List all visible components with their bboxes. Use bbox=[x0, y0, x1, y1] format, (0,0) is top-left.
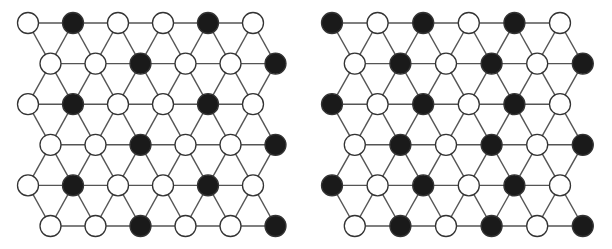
empty-node bbox=[436, 216, 457, 237]
empty-node bbox=[108, 13, 129, 34]
filled-node bbox=[413, 13, 434, 34]
filled-node bbox=[265, 134, 286, 155]
filled-node bbox=[130, 216, 151, 237]
filled-node bbox=[572, 134, 593, 155]
empty-node bbox=[458, 175, 479, 196]
filled-node bbox=[130, 134, 151, 155]
filled-node bbox=[130, 53, 151, 74]
filled-node bbox=[504, 13, 525, 34]
filled-node bbox=[572, 216, 593, 237]
empty-node bbox=[436, 53, 457, 74]
empty-node bbox=[108, 94, 129, 115]
empty-node bbox=[458, 13, 479, 34]
filled-node bbox=[413, 175, 434, 196]
empty-node bbox=[85, 216, 106, 237]
empty-node bbox=[344, 216, 365, 237]
filled-node bbox=[322, 94, 343, 115]
empty-node bbox=[40, 53, 61, 74]
filled-node bbox=[63, 13, 84, 34]
empty-node bbox=[220, 134, 241, 155]
empty-node bbox=[550, 175, 571, 196]
empty-node bbox=[344, 134, 365, 155]
filled-node bbox=[390, 216, 411, 237]
filled-node bbox=[413, 94, 434, 115]
empty-node bbox=[243, 175, 264, 196]
empty-node bbox=[458, 94, 479, 115]
empty-node bbox=[85, 134, 106, 155]
empty-node bbox=[175, 53, 196, 74]
empty-node bbox=[153, 94, 174, 115]
empty-node bbox=[436, 134, 457, 155]
empty-node bbox=[367, 13, 388, 34]
empty-node bbox=[344, 53, 365, 74]
filled-node bbox=[572, 53, 593, 74]
filled-node bbox=[63, 175, 84, 196]
filled-node bbox=[322, 13, 343, 34]
filled-node bbox=[265, 53, 286, 74]
empty-node bbox=[40, 216, 61, 237]
empty-node bbox=[153, 13, 174, 34]
filled-node bbox=[265, 216, 286, 237]
empty-node bbox=[550, 94, 571, 115]
filled-node bbox=[63, 94, 84, 115]
empty-node bbox=[527, 216, 548, 237]
empty-node bbox=[108, 175, 129, 196]
empty-node bbox=[153, 175, 174, 196]
filled-node bbox=[504, 175, 525, 196]
empty-node bbox=[18, 13, 39, 34]
filled-node bbox=[390, 134, 411, 155]
empty-node bbox=[85, 53, 106, 74]
empty-node bbox=[550, 13, 571, 34]
left-lattice bbox=[18, 13, 287, 237]
empty-node bbox=[243, 94, 264, 115]
filled-node bbox=[198, 175, 219, 196]
filled-node bbox=[198, 94, 219, 115]
filled-node bbox=[504, 94, 525, 115]
empty-node bbox=[367, 175, 388, 196]
empty-node bbox=[175, 134, 196, 155]
empty-node bbox=[40, 134, 61, 155]
filled-node bbox=[481, 216, 502, 237]
filled-node bbox=[481, 53, 502, 74]
empty-node bbox=[220, 53, 241, 74]
filled-node bbox=[198, 13, 219, 34]
empty-node bbox=[18, 175, 39, 196]
filled-node bbox=[390, 53, 411, 74]
right-lattice bbox=[322, 13, 594, 237]
empty-node bbox=[220, 216, 241, 237]
empty-node bbox=[175, 216, 196, 237]
empty-node bbox=[527, 134, 548, 155]
empty-node bbox=[527, 53, 548, 74]
triangular-lattice-figure bbox=[0, 0, 612, 249]
filled-node bbox=[481, 134, 502, 155]
empty-node bbox=[367, 94, 388, 115]
empty-node bbox=[18, 94, 39, 115]
empty-node bbox=[243, 13, 264, 34]
filled-node bbox=[322, 175, 343, 196]
